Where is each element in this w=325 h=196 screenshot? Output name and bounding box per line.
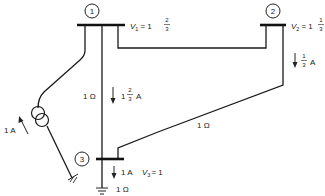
svg-text:2: 2 [128,87,132,93]
svg-text:3: 3 [302,62,306,68]
ground-icon [96,188,108,194]
source-lead-top [38,25,85,108]
svg-text:A: A [136,92,142,101]
source-current-arrow-icon [19,116,29,134]
current-source-icon [32,107,49,127]
source-current-label: 1 A [4,126,16,135]
bus-1-voltage-fraction: 2 3 [164,17,170,32]
svg-text:3: 3 [319,26,323,32]
circuit-diagram: 1 V1= 1 2 3 2 V2= 1 1 3 3 [0,0,325,196]
line-1-3-impedance: 1 Ω [83,92,96,101]
bus-1-voltage: V1= 1 [130,22,152,32]
source-lead-bottom [47,126,72,178]
bus-2-node-label: 2 [266,4,280,18]
source-ground-icon [68,174,78,183]
bus-2-voltage: V2= 1 [291,22,313,32]
svg-text:A: A [310,58,316,67]
svg-text:1: 1 [319,17,323,23]
line-2-3 [118,25,283,159]
bus-2-voltage-fraction: 1 3 [318,17,324,32]
line-1-3-current-label: 1 2 3 A [121,87,142,102]
bus-1-node-label: 1 [85,4,99,18]
line-2-3-current-arrow-icon [293,53,298,68]
svg-text:2: 2 [271,7,276,16]
svg-text:1: 1 [121,92,126,101]
bus-3-voltage: V3= 1 [142,168,163,178]
line-2-3-current-label: 1 3 A [301,53,316,68]
svg-text:3: 3 [128,96,132,102]
load-current-arrow-icon [112,166,117,179]
svg-text:3: 3 [80,155,85,164]
svg-text:3: 3 [165,26,169,32]
svg-text:1: 1 [90,7,95,16]
load-impedance: 1 Ω [116,185,129,194]
line-1-3-current-arrow-icon [111,87,116,104]
load-current-label: 1 A [121,168,133,177]
svg-text:1: 1 [302,53,306,59]
svg-text:2: 2 [165,17,169,23]
line-2-3-impedance: 1 Ω [197,121,210,130]
bus-3-node-label: 3 [75,152,89,166]
